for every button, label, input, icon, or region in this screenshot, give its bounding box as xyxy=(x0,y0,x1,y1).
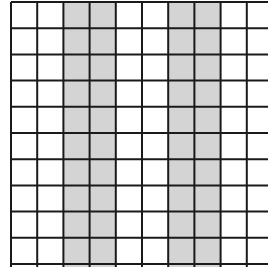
shaded-cell-column xyxy=(168,2,194,267)
shaded-cell-column xyxy=(63,2,89,267)
horizontal-grid-lines xyxy=(11,2,268,264)
shaded-cell-column xyxy=(90,2,116,267)
shaded-cell-column xyxy=(194,2,220,267)
grid-diagram xyxy=(0,0,268,267)
